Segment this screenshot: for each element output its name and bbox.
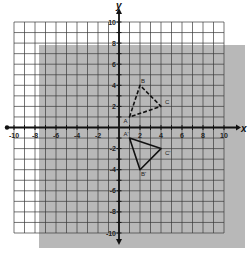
- y-tick-label: 6: [112, 61, 116, 68]
- vertex-label: C': [165, 150, 170, 156]
- coordinate-plane-figure: xy -10-8-6-4-2246810108642-2-4-6-8-10 AB…: [0, 0, 248, 256]
- x-axis-label: x: [240, 123, 247, 134]
- y-tick-label: -6: [110, 187, 116, 194]
- y-tick-label: -4: [110, 166, 116, 173]
- gray-shading-overlay: [39, 45, 245, 248]
- y-tick-label: 10: [108, 19, 116, 26]
- x-axis-arrow-left: [5, 125, 9, 129]
- x-tick-label: -4: [74, 132, 80, 139]
- y-tick-label: -10: [106, 230, 116, 237]
- vertex-label: A': [124, 131, 129, 137]
- y-axis-label: y: [115, 0, 122, 11]
- y-tick-label: -8: [110, 208, 116, 215]
- vertex-label: B': [141, 171, 146, 177]
- x-tick-label: 10: [220, 132, 228, 139]
- vertex-label: B: [141, 78, 145, 84]
- y-tick-label: -2: [110, 145, 116, 152]
- y-tick-label: 2: [112, 103, 116, 110]
- x-tick-label: -10: [9, 132, 19, 139]
- vertex-label: A: [124, 118, 128, 124]
- x-tick-label: 4: [159, 132, 163, 139]
- x-tick-label: 6: [180, 132, 184, 139]
- y-tick-label: 8: [112, 40, 116, 47]
- x-tick-label: 8: [201, 132, 205, 139]
- vertex-label: C: [165, 99, 170, 105]
- y-tick-label: 4: [112, 82, 116, 89]
- x-tick-label: -6: [53, 132, 59, 139]
- x-tick-label: 2: [138, 132, 142, 139]
- x-tick-label: -2: [95, 132, 101, 139]
- coordinate-plane: xy -10-8-6-4-2246810108642-2-4-6-8-10 AB…: [0, 0, 248, 256]
- x-tick-label: -8: [32, 132, 38, 139]
